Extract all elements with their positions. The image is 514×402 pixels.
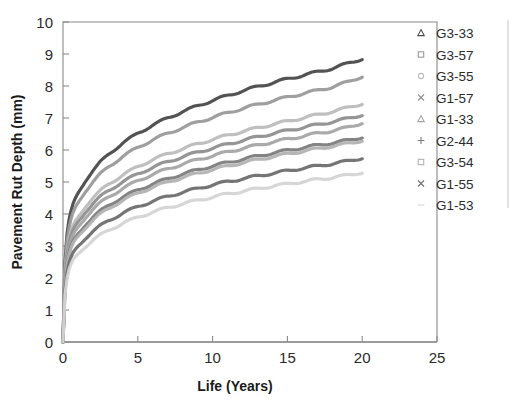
x-axis-title: Life (Years) [197, 378, 272, 394]
legend-item-label: G1-53 [436, 198, 474, 213]
y-tick-label: 1 [45, 302, 53, 319]
rut-depth-chart: 012345678910 0510152025 G3-33G3-57G3-55G… [0, 0, 514, 402]
legend-item-label: G2-44 [436, 134, 474, 149]
y-tick-label: 9 [45, 46, 53, 63]
x-tick-label: 25 [429, 349, 446, 366]
legend-item-label: G1-33 [436, 112, 474, 127]
y-tick-label: 10 [36, 14, 53, 31]
legend-item-label: G3-54 [436, 155, 474, 170]
y-tick-label: 5 [45, 174, 53, 191]
y-tick-label: 3 [45, 238, 53, 255]
y-tick-label: 8 [45, 78, 53, 95]
x-tick-label: 5 [134, 349, 142, 366]
x-tick-label: 20 [354, 349, 371, 366]
y-tick-label: 2 [45, 270, 53, 287]
legend-item-label: G3-57 [436, 48, 474, 63]
y-tick-label: 7 [45, 110, 53, 127]
x-tick-label: 0 [59, 349, 67, 366]
x-tick-label: 15 [279, 349, 296, 366]
y-tick-label: 4 [45, 206, 53, 223]
chart-canvas: 012345678910 0510152025 G3-33G3-57G3-55G… [0, 0, 514, 402]
legend-item-label: G3-55 [436, 69, 474, 84]
legend-item-label: G3-33 [436, 26, 474, 41]
legend-item-label: G1-57 [436, 91, 474, 106]
x-tick-label: 10 [204, 349, 221, 366]
legend-item-label: G1-55 [436, 177, 474, 192]
y-axis-title: Pavement Rut Depth (mm) [9, 94, 25, 269]
y-tick-label: 6 [45, 142, 53, 159]
y-tick-label: 0 [45, 334, 53, 351]
